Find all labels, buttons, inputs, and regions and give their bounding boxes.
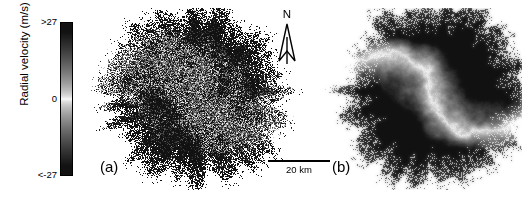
scale-bar-label: 20 km <box>268 164 330 175</box>
colorbar-tick-min: <-27 <box>24 169 57 180</box>
north-arrow-icon: N <box>272 8 302 70</box>
colorbar-tick-zero: 0 <box>24 93 57 104</box>
colorbar-tick-max: >27 <box>24 16 57 27</box>
north-arrow-label: N <box>272 8 302 20</box>
figure-canvas: Radial velocity (m/s) >27 0 <-27 (a) (b)… <box>0 0 524 199</box>
panel-a-label: (a) <box>100 158 118 175</box>
panel-b-radial-velocity-map <box>322 8 522 190</box>
scale-bar-line <box>268 160 330 162</box>
colorbar <box>60 22 73 176</box>
panel-b-label: (b) <box>332 158 350 175</box>
scale-bar: 20 km <box>268 160 330 175</box>
